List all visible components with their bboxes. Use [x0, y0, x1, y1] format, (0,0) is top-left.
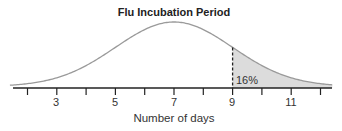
tick-label-7: 7 — [171, 96, 177, 108]
tick-label-5: 5 — [112, 96, 118, 108]
x-axis-label: Number of days — [133, 112, 214, 124]
bell-curve — [10, 22, 332, 85]
plot-area: 16% — [10, 22, 332, 95]
normal-distribution-chart: Flu Incubation Period 16% 3 5 7 9 11 Num… — [0, 0, 342, 131]
tick-label-3: 3 — [53, 96, 59, 108]
x-axis-ticks — [28, 88, 321, 95]
chart-title: Flu Incubation Period — [118, 6, 230, 18]
percentage-annotation: 16% — [236, 74, 258, 86]
tick-label-9: 9 — [229, 96, 235, 108]
x-tick-labels: 3 5 7 9 11 — [53, 96, 297, 108]
tick-label-11: 11 — [285, 96, 296, 108]
